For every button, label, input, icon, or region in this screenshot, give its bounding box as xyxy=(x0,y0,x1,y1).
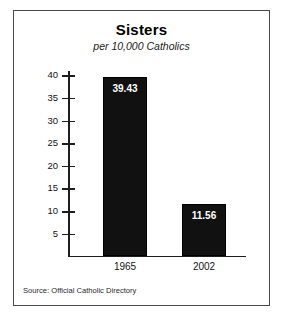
bar-value-2002: 11.56 xyxy=(183,210,225,221)
y-tick-label-35: 35 xyxy=(22,92,58,103)
y-tick-label-30: 30 xyxy=(22,115,58,126)
bar-2002[interactable]: 11.56 xyxy=(182,204,226,256)
bar-value-1965: 39.43 xyxy=(104,83,146,94)
bar-1965[interactable]: 39.43 xyxy=(103,77,147,256)
chart-frame: Sisters per 10,000 Catholics 40 35 30 25… xyxy=(13,10,270,306)
y-tick-5 xyxy=(62,234,75,236)
y-tick-35 xyxy=(62,98,75,100)
y-tick-label-40: 40 xyxy=(22,69,58,80)
y-tick-label-10: 10 xyxy=(22,205,58,216)
y-tick-label-20: 20 xyxy=(22,160,58,171)
y-tick-40 xyxy=(62,75,75,77)
y-tick-label-15: 15 xyxy=(22,182,58,193)
y-tick-30 xyxy=(62,121,75,123)
source-note: Source: Official Catholic Directory xyxy=(23,286,136,295)
y-tick-20 xyxy=(62,166,75,168)
x-tick-label-2002: 2002 xyxy=(182,261,226,272)
y-tick-label-5: 5 xyxy=(22,228,58,239)
y-tick-15 xyxy=(62,188,75,190)
y-tick-label-25: 25 xyxy=(22,137,58,148)
y-tick-10 xyxy=(62,211,75,213)
y-tick-25 xyxy=(62,143,75,145)
chart-screenshot: Sisters per 10,000 Catholics 40 35 30 25… xyxy=(0,0,287,319)
x-tick-label-1965: 1965 xyxy=(103,261,147,272)
plot-area: 40 35 30 25 20 15 10 5 39.43 11.56 xyxy=(14,11,269,305)
